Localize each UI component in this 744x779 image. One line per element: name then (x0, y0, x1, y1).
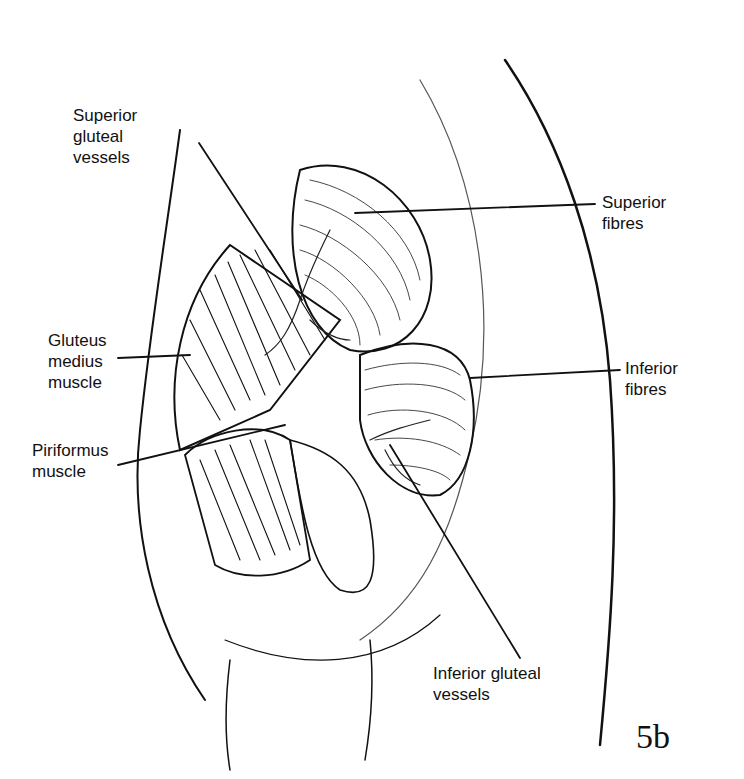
figure-number: 5b (636, 718, 670, 756)
inferior-gluteal-vessel-branch (370, 420, 430, 485)
leader-gluteus-medius (118, 355, 190, 358)
label-inferior-gluteal-vessels: Inferior gluteal vessels (433, 663, 541, 705)
leader-inferior-gluteal-vessels (390, 445, 520, 658)
right-body-outline (505, 60, 614, 745)
lower-thigh-outline (225, 615, 440, 660)
label-superior-fibres: Superior fibres (602, 192, 666, 234)
leader-inferior-fibres (470, 370, 620, 378)
gluteus-medius-outline (174, 245, 340, 450)
inner-leg-line (365, 640, 372, 760)
label-superior-gluteal-vessels: Superior gluteal vessels (73, 105, 137, 168)
leader-piriformus (118, 425, 285, 465)
buttock-contour (360, 80, 484, 640)
label-gluteus-medius-muscle: Gluteus medius muscle (48, 330, 107, 393)
label-inferior-fibres: Inferior fibres (625, 358, 678, 400)
left-body-outline (138, 130, 205, 700)
outer-leg-line (226, 660, 230, 770)
label-piriformus-muscle: Piriformus muscle (32, 440, 109, 482)
inferior-fibres-outline (360, 344, 474, 496)
leader-superior-fibres (355, 204, 595, 213)
